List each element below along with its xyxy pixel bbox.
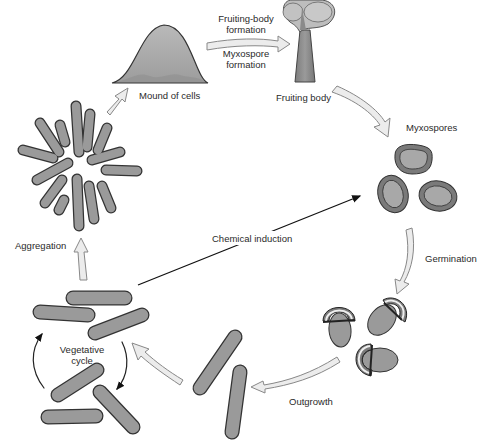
fruiting-to-myxospores-arrow: [332, 86, 390, 137]
outgrowth-label: Outgrowth: [289, 396, 333, 407]
fruiting-body-label: Fruiting body: [276, 92, 331, 103]
myxospore-formation-label: Myxospore formation: [210, 48, 282, 70]
myxospores-label: Myxospores: [406, 122, 457, 133]
aggregation-cluster: [23, 106, 137, 226]
label-line: formation: [210, 59, 282, 70]
mound-of-cells: [112, 25, 208, 83]
label-line: formation: [210, 24, 282, 35]
outgrowth-arrow: [251, 357, 340, 393]
label-line: Vegetative: [50, 344, 114, 355]
germination-label: Germination: [425, 253, 477, 264]
chemical-induction-label: Chemical induction: [212, 233, 292, 244]
fruiting-body-formation-label: Fruiting-body formation: [210, 13, 282, 35]
vegetative-to-aggregation-arrow: [74, 238, 88, 280]
outgrowth-cells: [200, 337, 240, 432]
fruiting-body: [283, 0, 335, 82]
outgrowth-to-vegetative-arrow: [132, 343, 183, 385]
label-line: Myxospore: [210, 48, 282, 59]
aggregation-to-mound-arrow: [107, 88, 128, 115]
label-line: Fruiting-body: [210, 13, 282, 24]
vegetative-cycle-label: Vegetative cycle: [50, 344, 114, 366]
aggregation-label: Aggregation: [15, 240, 66, 251]
germination-arrow: [395, 228, 414, 294]
myxospores: [374, 144, 460, 216]
label-line: cycle: [50, 355, 114, 366]
myxobacteria-life-cycle-diagram: Fruiting-body formation Myxospore format…: [0, 0, 483, 442]
mound-of-cells-label: Mound of cells: [139, 90, 200, 101]
